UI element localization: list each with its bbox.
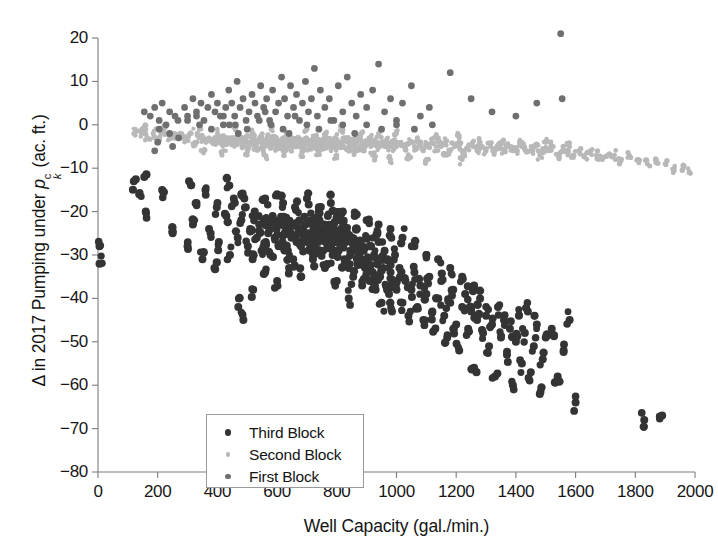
legend-marker-icon — [207, 474, 249, 480]
y-tick-label: −40 — [32, 288, 88, 308]
y-tick-label: 0 — [32, 115, 88, 135]
legend-marker-icon — [207, 452, 249, 457]
legend-marker-icon — [207, 429, 249, 435]
y-tick-label: −20 — [32, 202, 88, 222]
y-tick-label: −80 — [32, 462, 88, 482]
plot-area: Third BlockSecond BlockFirst Block — [98, 38, 695, 472]
y-tick-label: −60 — [32, 375, 88, 395]
legend-item-third-block[interactable]: Third Block — [207, 421, 365, 444]
x-axis-label: Well Capacity (gal./min.) — [98, 516, 695, 537]
legend-label: First Block — [249, 468, 319, 486]
legend-item-second-block[interactable]: Second Block — [207, 443, 365, 466]
y-tick-label: −70 — [32, 419, 88, 439]
legend-label: Second Block — [249, 446, 341, 464]
legend-label: Third Block — [249, 424, 324, 442]
y-tick-label: 10 — [32, 71, 88, 91]
data-points-layer — [98, 38, 695, 472]
legend: Third BlockSecond BlockFirst Block — [206, 414, 364, 488]
y-tick-label: −30 — [32, 245, 88, 265]
y-tick-label: −50 — [32, 332, 88, 352]
x-tick-label: 2000 — [660, 482, 718, 502]
y-tick-label: 20 — [32, 28, 88, 48]
y-tick-label: −10 — [32, 158, 88, 178]
legend-item-first-block[interactable]: First Block — [207, 465, 365, 488]
series-third-block — [95, 170, 666, 431]
